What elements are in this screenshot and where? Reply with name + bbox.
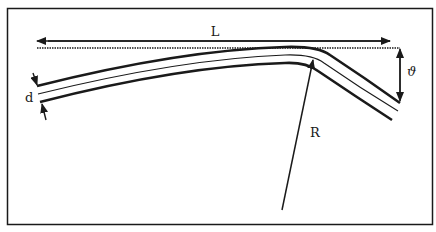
radius-line <box>282 60 313 210</box>
diagram-canvas: L d ϑ R <box>0 0 436 232</box>
length-label: L <box>211 24 220 39</box>
deflection-label: ϑ <box>407 64 416 79</box>
strip-bottom-edge <box>40 63 392 120</box>
thickness-arrow-top <box>33 73 37 85</box>
thickness-arrow-bottom <box>42 104 46 120</box>
radius-label: R <box>310 125 321 140</box>
thickness-label: d <box>25 90 33 105</box>
strip-top-edge <box>37 47 400 103</box>
